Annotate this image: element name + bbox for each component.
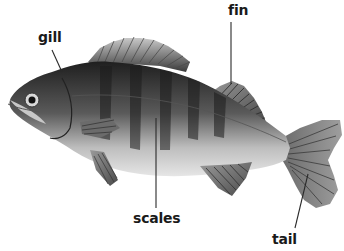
anal-fin: [200, 162, 252, 196]
gill-leader-line: [52, 50, 62, 72]
label-fin: fin: [228, 3, 248, 17]
fish-diagram: gill fin scales tail: [0, 0, 344, 251]
label-tail: tail: [272, 232, 297, 246]
label-scales: scales: [133, 211, 181, 225]
eye: [25, 93, 39, 107]
label-gill: gill: [38, 30, 62, 44]
fish-body: [9, 62, 290, 177]
caudal-fin: [280, 120, 342, 208]
